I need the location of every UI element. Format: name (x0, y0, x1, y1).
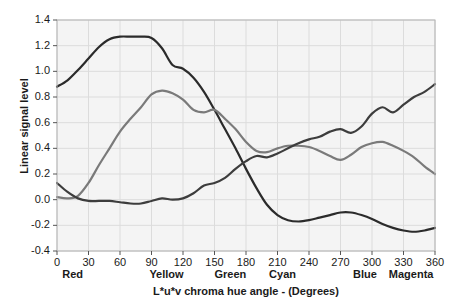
y-tick-label: 0.2 (18, 167, 50, 179)
y-tick-label: -0.4 (18, 244, 50, 256)
hue-label-yellow: Yellow (149, 268, 183, 280)
y-tick-label: 0.8 (18, 90, 50, 102)
hue-label-magenta: Magenta (389, 268, 434, 280)
y-tick-label: 1.4 (18, 13, 50, 25)
hue-label-blue: Blue (353, 268, 377, 280)
x-tick-label: 360 (415, 256, 455, 268)
chart-figure: Linear signal level -0.4-0.20.00.20.40.6… (0, 0, 459, 306)
y-tick-label: 0.6 (18, 116, 50, 128)
y-tick-label: 1.0 (18, 64, 50, 76)
hue-label-green: Green (215, 268, 247, 280)
hue-label-red: Red (62, 268, 83, 280)
hue-label-cyan: Cyan (269, 268, 296, 280)
y-tick-label: 0.0 (18, 193, 50, 205)
x-axis-label: L*u*v chroma hue angle - (Degrees) (57, 285, 435, 297)
y-tick-label: -0.2 (18, 218, 50, 230)
y-tick-label: 0.4 (18, 141, 50, 153)
y-tick-label: 1.2 (18, 39, 50, 51)
